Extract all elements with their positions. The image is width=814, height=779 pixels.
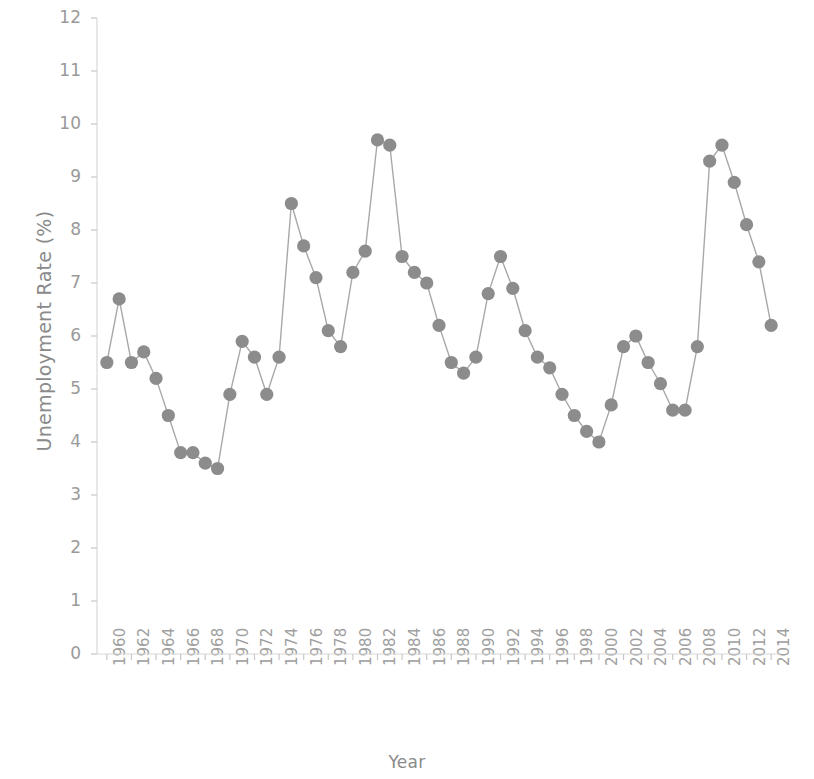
data-point bbox=[469, 351, 482, 364]
data-point bbox=[260, 388, 273, 401]
data-point bbox=[383, 139, 396, 152]
data-point bbox=[211, 462, 224, 475]
data-point bbox=[555, 388, 568, 401]
data-point bbox=[432, 319, 445, 332]
data-point bbox=[186, 446, 199, 459]
data-point bbox=[629, 329, 642, 342]
data-point bbox=[297, 239, 310, 252]
data-point bbox=[531, 351, 544, 364]
data-point bbox=[149, 372, 162, 385]
data-point bbox=[125, 356, 138, 369]
data-point bbox=[359, 245, 372, 258]
data-point bbox=[236, 335, 249, 348]
data-point bbox=[592, 435, 605, 448]
data-point bbox=[691, 340, 704, 353]
data-point bbox=[322, 324, 335, 337]
data-point bbox=[223, 388, 236, 401]
data-point bbox=[543, 361, 556, 374]
data-point bbox=[519, 324, 532, 337]
axes bbox=[91, 18, 781, 660]
data-point bbox=[457, 367, 470, 380]
data-point bbox=[568, 409, 581, 422]
data-point bbox=[272, 351, 285, 364]
data-point bbox=[346, 266, 359, 279]
data-point bbox=[174, 446, 187, 459]
data-point bbox=[605, 398, 618, 411]
data-point bbox=[248, 351, 261, 364]
data-point bbox=[113, 292, 126, 305]
data-point bbox=[420, 276, 433, 289]
data-point bbox=[494, 250, 507, 263]
data-point bbox=[752, 255, 765, 268]
data-point bbox=[728, 176, 741, 189]
data-point bbox=[334, 340, 347, 353]
data-point bbox=[654, 377, 667, 390]
unemployment-rate-chart: Unemployment Rate (%) Year 0123456789101… bbox=[0, 0, 814, 779]
data-point bbox=[199, 457, 212, 470]
data-point bbox=[506, 282, 519, 295]
data-point bbox=[642, 356, 655, 369]
data-point bbox=[703, 155, 716, 168]
data-point bbox=[285, 197, 298, 210]
data-point bbox=[617, 340, 630, 353]
data-point bbox=[666, 404, 679, 417]
data-point bbox=[371, 133, 384, 146]
data-point bbox=[395, 250, 408, 263]
data-point bbox=[580, 425, 593, 438]
data-point bbox=[408, 266, 421, 279]
data-point bbox=[740, 218, 753, 231]
data-point bbox=[482, 287, 495, 300]
data-point bbox=[162, 409, 175, 422]
data-point bbox=[765, 319, 778, 332]
data-point bbox=[715, 139, 728, 152]
data-point bbox=[309, 271, 322, 284]
data-point bbox=[137, 345, 150, 358]
data-point bbox=[445, 356, 458, 369]
series-line-unemployment bbox=[107, 140, 771, 469]
data-point bbox=[678, 404, 691, 417]
data-series bbox=[100, 133, 778, 475]
data-point bbox=[100, 356, 113, 369]
plot-area bbox=[0, 0, 814, 779]
